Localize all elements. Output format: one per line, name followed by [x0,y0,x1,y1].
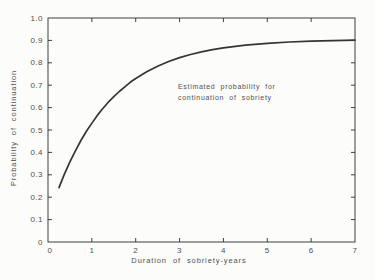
annotation: Estimated probability for continuation o… [178,81,276,103]
y-axis-label: Probability of continuation [9,70,18,186]
y-tick-label: 0.1 [30,215,43,224]
annotation-line-1: Estimated probability for [178,81,276,92]
y-tick-label: 0.3 [30,170,43,179]
x-tick-label: 4 [221,246,226,255]
y-tick-label: 0.7 [30,81,43,90]
y-tick-label: 1.0 [30,14,43,23]
sobriety-probability-chart: 0123456700.10.20.30.40.50.60.70.80.91.0 [0,0,375,280]
x-tick-label: 3 [177,246,182,255]
y-tick-label: 0.9 [30,36,43,45]
x-tick-label: 2 [133,246,138,255]
x-tick-label: 0 [48,246,53,255]
probability-curve [59,40,355,187]
x-tick-label: 1 [89,246,94,255]
x-axis-label: Duration of sobriety-years [131,256,246,265]
y-tick-label: 0.2 [30,193,43,202]
y-tick-label: 0.4 [30,148,43,157]
x-tick-label: 5 [265,246,270,255]
chart-figure: 0123456700.10.20.30.40.50.60.70.80.91.0 … [0,0,375,280]
y-tick-label: 0.5 [30,126,43,135]
x-tick-label: 6 [309,246,314,255]
x-tick-label: 7 [353,246,358,255]
y-tick-label: 0.8 [30,58,43,67]
y-tick-label: 0 [38,238,43,247]
annotation-line-2: continuation of sobriety [178,92,276,103]
y-tick-label: 0.6 [30,103,43,112]
